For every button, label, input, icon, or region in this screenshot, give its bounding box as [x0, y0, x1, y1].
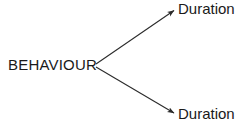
node-duration-bottom: Duration	[178, 106, 235, 121]
node-duration-top: Duration	[178, 1, 235, 16]
diagram-canvas: BEHAVIOUR Duration Duration	[0, 0, 243, 129]
edge-to-duration-bottom	[96, 67, 174, 113]
edge-to-duration-top	[96, 11, 174, 65]
node-behaviour: BEHAVIOUR	[8, 57, 97, 72]
